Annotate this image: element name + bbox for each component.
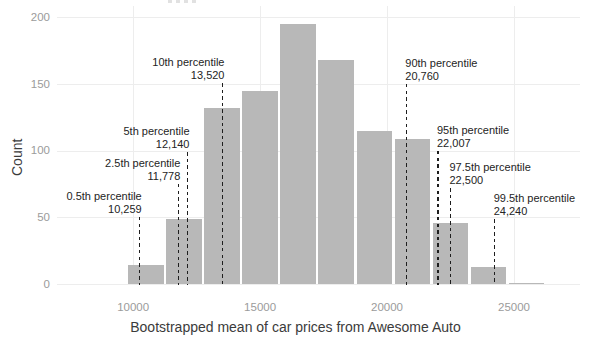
- percentile-name: 97.5th percentile: [450, 161, 531, 174]
- percentile-line: [187, 152, 189, 285]
- y-tick-label: 50: [10, 211, 50, 224]
- percentile-value: 24,240: [494, 205, 575, 218]
- y-tick-label: 200: [10, 11, 50, 24]
- percentile-label: 95th percentile22,007: [437, 124, 509, 150]
- plot-area: 0.5th percentile10,2592.5th percentile11…: [0, 0, 591, 340]
- percentile-name: 95th percentile: [437, 124, 509, 137]
- x-tick-label: 15000: [230, 301, 290, 314]
- percentile-value: 20,760: [405, 70, 477, 83]
- y-axis-title: Count: [9, 139, 25, 176]
- percentile-label: 99.5th percentile24,240: [494, 192, 575, 218]
- percentile-label: 97.5th percentile22,500: [450, 161, 531, 187]
- histogram-bar: [471, 267, 507, 284]
- histogram-bar: [128, 265, 164, 284]
- percentile-label: 0.5th percentile10,259: [66, 190, 141, 216]
- x-axis-title: Bootstrapped mean of car prices from Awe…: [0, 319, 591, 335]
- x-tick-label: 25000: [484, 301, 544, 314]
- percentile-name: 90th percentile: [405, 57, 477, 70]
- percentile-label: 90th percentile20,760: [405, 57, 477, 83]
- percentile-line: [450, 188, 452, 285]
- percentile-line: [494, 219, 496, 285]
- y-tick-label: 0: [10, 278, 50, 291]
- x-tick-label: 10000: [103, 301, 163, 314]
- y-gridline: [57, 17, 580, 18]
- percentile-line: [406, 84, 408, 285]
- percentile-line: [222, 83, 224, 285]
- y-gridline: [57, 284, 580, 285]
- percentile-line: [178, 184, 180, 285]
- percentile-line: [437, 151, 439, 285]
- x-tick-label: 20000: [357, 301, 417, 314]
- histogram-bar: [280, 24, 316, 284]
- percentile-label: 5th percentile12,140: [123, 125, 189, 151]
- percentile-value: 22,007: [437, 137, 509, 150]
- percentile-value: 11,778: [105, 170, 180, 183]
- percentile-value: 10,259: [66, 203, 141, 216]
- histogram-bar: [318, 60, 354, 284]
- percentile-value: 12,140: [123, 138, 189, 151]
- percentile-label: 10th percentile13,520: [152, 56, 224, 82]
- percentile-line: [139, 217, 141, 285]
- bootstrap-histogram-figure: 0.5th percentile10,2592.5th percentile11…: [0, 0, 591, 340]
- histogram-bar: [395, 139, 431, 284]
- histogram-bar: [166, 219, 202, 284]
- percentile-name: 0.5th percentile: [66, 190, 141, 203]
- percentile-name: 5th percentile: [123, 125, 189, 138]
- x-gridline: [514, 6, 515, 284]
- percentile-label: 2.5th percentile11,778: [105, 157, 180, 183]
- y-tick-label: 150: [10, 78, 50, 91]
- percentile-value: 22,500: [450, 174, 531, 187]
- histogram-bar: [357, 131, 393, 284]
- percentile-name: 99.5th percentile: [494, 192, 575, 205]
- percentile-name: 10th percentile: [152, 56, 224, 69]
- histogram-bar: [509, 283, 545, 284]
- histogram-bar: [242, 91, 278, 284]
- percentile-name: 2.5th percentile: [105, 157, 180, 170]
- percentile-value: 13,520: [152, 69, 224, 82]
